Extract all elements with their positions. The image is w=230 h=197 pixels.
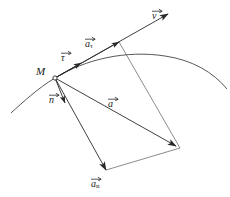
total-acceleration-vector-line — [55, 78, 176, 146]
parallelogram-side-right — [119, 42, 180, 148]
velocity-vector-label: v — [152, 8, 164, 21]
vector-arrow-overbar-icon — [108, 96, 120, 100]
tangent-unit-vector-line — [55, 63, 81, 78]
tau-subscript: τ — [90, 42, 93, 50]
physics-diagram-figure: M v τ aτ n a an — [0, 0, 230, 197]
n-subscript: n — [96, 182, 100, 190]
point-m-marker — [53, 76, 57, 80]
normal-acceleration-label: an — [91, 176, 105, 190]
normal-unit-vector-label: n — [49, 92, 61, 105]
point-m-label: M — [36, 66, 45, 77]
vector-arrow-overbar-icon — [85, 36, 99, 40]
vector-arrow-overbar-icon — [49, 92, 61, 96]
tangent-unit-vector-label: τ — [61, 50, 73, 63]
normal-acceleration-vector-line — [55, 78, 106, 170]
total-acceleration-label: a — [108, 96, 120, 109]
parallelogram-side-bottom — [106, 148, 180, 170]
vector-arrow-overbar-icon — [61, 50, 73, 54]
vector-arrow-overbar-icon — [152, 8, 164, 12]
tangential-acceleration-label: aτ — [85, 36, 99, 50]
vector-arrow-overbar-icon — [91, 176, 105, 180]
